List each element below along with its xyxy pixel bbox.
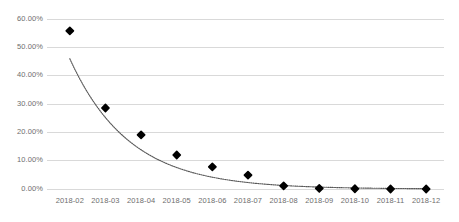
chart-container: 60.00%50.00%40.00%30.00%20.00%10.00%0.00…	[0, 0, 459, 222]
x-axis-tick-label: 2018-05	[159, 196, 195, 205]
x-axis-tick-label: 2018-06	[195, 196, 231, 205]
y-axis-tick-label: 40.00%	[17, 70, 43, 79]
y-axis-tick-label: 30.00%	[17, 99, 43, 108]
data-point-marker	[316, 185, 323, 192]
x-axis-tick-label: 2018-07	[230, 196, 266, 205]
data-point-marker	[66, 27, 73, 34]
trendline-path	[70, 59, 426, 189]
x-axis-tick-label: 2018-03	[88, 196, 124, 205]
data-point-marker	[209, 163, 216, 170]
data-point-marker	[244, 172, 251, 179]
data-point-marker	[351, 185, 358, 192]
x-axis-tick-label: 2018-11	[373, 196, 409, 205]
x-axis-tick-label: 2018-12	[408, 196, 444, 205]
data-point-marker	[102, 104, 109, 111]
x-axis-tick-label: 2018-10	[337, 196, 373, 205]
y-axis-tick-label: 20.00%	[17, 127, 43, 136]
data-point-marker	[423, 185, 430, 192]
data-point-marker	[280, 182, 287, 189]
x-axis-tick-label: 2018-08	[266, 196, 302, 205]
x-axis-tick-label: 2018-04	[123, 196, 159, 205]
x-axis-tick-label: 2018-09	[301, 196, 337, 205]
x-axis-tick-label: 2018-02	[52, 196, 88, 205]
trendline-series	[70, 59, 426, 189]
y-axis-tick-label: 10.00%	[17, 155, 43, 164]
gridlines	[47, 19, 444, 189]
y-axis-tick-label: 0.00%	[21, 184, 43, 193]
data-point-marker	[173, 151, 180, 158]
chart-plot-area	[0, 0, 459, 222]
y-axis-tick-label: 60.00%	[17, 14, 43, 23]
y-axis-tick-label: 50.00%	[17, 42, 43, 51]
data-point-markers	[66, 27, 430, 192]
data-point-marker	[387, 185, 394, 192]
